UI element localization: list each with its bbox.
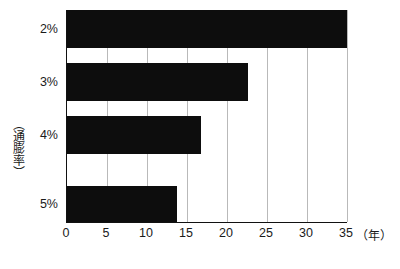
y-tick-label: 4% [0, 128, 66, 142]
x-tick-label: 20 [219, 226, 233, 240]
bar-3-percent [67, 63, 248, 101]
x-tick-label: 15 [179, 226, 193, 240]
y-tick-label: 2% [0, 22, 66, 36]
bar-5-percent [67, 186, 177, 222]
x-tick-label: 35 [339, 226, 353, 240]
plot-area [66, 10, 347, 223]
bar-2-percent [67, 10, 347, 48]
bar-chart: （通膨率） 2% 3% 4% 5% 0 5 10 15 20 25 [0, 0, 400, 269]
x-tick-label: 30 [299, 226, 313, 240]
x-tick-label: 0 [63, 226, 70, 240]
y-tick-label: 3% [0, 75, 66, 89]
y-axis-tick-labels: 2% 3% 4% 5% [0, 0, 66, 269]
bars-layer [67, 10, 347, 222]
x-axis-label: （年） [356, 226, 392, 243]
x-tick-label: 5 [103, 226, 110, 240]
bar-4-percent [67, 116, 201, 154]
x-axis-tick-labels: 0 5 10 15 20 25 30 35 [66, 226, 346, 248]
gridline-35 [347, 10, 348, 222]
x-tick-label: 25 [259, 226, 273, 240]
x-tick-label: 10 [139, 226, 153, 240]
y-tick-label: 5% [0, 197, 66, 211]
